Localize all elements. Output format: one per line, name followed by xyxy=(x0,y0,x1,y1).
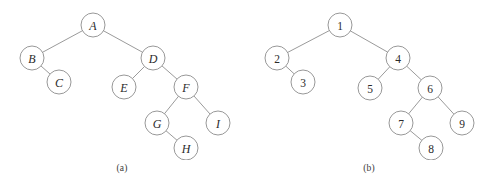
tree-node: F xyxy=(174,75,198,99)
tree-node-label: C xyxy=(55,76,64,90)
tree-node-label: B xyxy=(28,52,36,66)
tree-diagram-a: ABCDEFGIH xyxy=(0,0,246,160)
tree-node-label: A xyxy=(88,19,97,33)
tree-edge xyxy=(378,67,390,79)
panel-caption-b: (b) xyxy=(339,163,399,173)
binary-tree-figure: ABCDEFGIH (a) 123456798 (b) xyxy=(0,0,493,193)
tree-node: 8 xyxy=(419,136,443,160)
tree-node: 1 xyxy=(328,13,352,37)
tree-node: D xyxy=(141,46,165,70)
tree-edge xyxy=(132,66,144,78)
tree-edge xyxy=(409,97,423,114)
tree-edge xyxy=(350,31,387,52)
tree-node-label: E xyxy=(119,81,128,95)
tree-node: 5 xyxy=(358,76,382,100)
tree-diagram-b: 123456798 xyxy=(246,0,493,160)
tree-node-label: G xyxy=(153,117,162,131)
tree-node: C xyxy=(47,70,71,94)
tree-edge xyxy=(286,66,294,74)
tree-node-label: F xyxy=(181,81,190,95)
tree-node: G xyxy=(145,111,169,135)
tree-panel-a: ABCDEFGIH (a) xyxy=(0,0,246,193)
tree-edge xyxy=(438,97,454,114)
tree-node-label: 9 xyxy=(459,118,465,130)
tree-node-label: 8 xyxy=(428,143,434,155)
tree-node-label: D xyxy=(148,52,158,66)
tree-edge xyxy=(194,96,210,114)
tree-node: H xyxy=(174,136,198,160)
tree-edge xyxy=(410,131,422,141)
tree-edge xyxy=(104,31,143,52)
tree-node: I xyxy=(206,111,230,135)
tree-panel-b: 123456798 (b) xyxy=(246,0,493,193)
panel-caption-a: (a) xyxy=(92,163,152,173)
tree-node: 6 xyxy=(418,76,442,100)
tree-node-label: 4 xyxy=(395,53,401,65)
tree-node: 3 xyxy=(291,70,315,94)
tree-node: 7 xyxy=(389,111,413,135)
tree-edge xyxy=(165,96,179,113)
tree-node: 4 xyxy=(386,46,410,70)
tree-node: A xyxy=(81,13,105,37)
tree-node-label: 6 xyxy=(427,83,433,95)
tree-edge xyxy=(43,31,83,53)
tree-edge xyxy=(41,66,50,74)
tree-node-label: 3 xyxy=(300,77,306,89)
tree-node-label: 2 xyxy=(274,53,280,65)
tree-edge xyxy=(288,31,330,53)
tree-edge xyxy=(166,131,177,140)
tree-node: E xyxy=(112,75,136,99)
tree-node: 9 xyxy=(450,111,474,135)
tree-node: 2 xyxy=(265,46,289,70)
tree-node-label: 5 xyxy=(367,83,373,95)
tree-node: B xyxy=(20,46,44,70)
tree-node-label: H xyxy=(181,142,192,156)
tree-edge xyxy=(407,66,422,80)
tree-edge xyxy=(162,66,177,79)
tree-node-label: 7 xyxy=(398,118,404,130)
tree-node-label: 1 xyxy=(337,20,343,32)
